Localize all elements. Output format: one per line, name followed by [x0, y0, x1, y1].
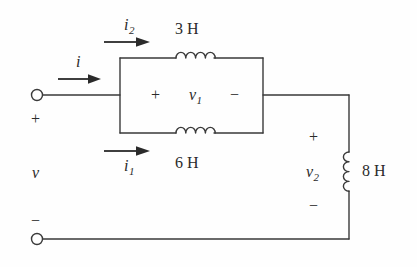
- v2-plus-sign: +: [309, 129, 318, 145]
- voltage-label-v: v: [32, 165, 39, 181]
- v2-minus-sign: −: [309, 198, 318, 214]
- current-label-i2: i2: [124, 17, 134, 36]
- current-arrow-i-head: [88, 74, 101, 83]
- circuit-diagram-figure: i2 3 H i + v1 − + 6 H i1 + v v2 8 H − −: [0, 0, 417, 267]
- v1-plus-sign: +: [151, 87, 160, 103]
- v1-minus-sign: −: [230, 87, 239, 103]
- inductor-6h-coil: [176, 127, 215, 133]
- inductor-3h-coil: [176, 52, 215, 58]
- inductor-8h-coil: [343, 152, 349, 191]
- circuit-schematic-svg: [0, 0, 417, 267]
- voltage-label-v1: v1: [189, 87, 202, 106]
- source-plus-sign: +: [31, 111, 40, 127]
- inductor-6h-value-label: 6 H: [175, 155, 199, 171]
- current-label-i1: i1: [124, 158, 134, 177]
- current-label-i: i: [76, 54, 80, 70]
- voltage-label-v2: v2: [306, 164, 319, 183]
- inductor-8h-value-label: 8 H: [362, 163, 386, 179]
- current-arrow-i2-head: [136, 37, 150, 46]
- negative-terminal-node: [32, 234, 43, 245]
- source-minus-sign: −: [31, 213, 40, 229]
- positive-terminal-node: [32, 90, 43, 101]
- inductor-3h-value-label: 3 H: [175, 21, 199, 37]
- current-arrow-i1-head: [136, 146, 150, 155]
